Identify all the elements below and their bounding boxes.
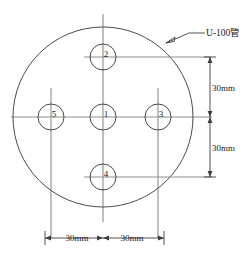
- hole-label-5: 5: [52, 109, 57, 119]
- pipe-label-text: U-100管: [206, 27, 240, 38]
- arrowhead-down-upper-icon: [208, 111, 213, 117]
- dimension-label-vertical-lower: 30mm: [212, 143, 235, 153]
- horizontal-dimension-group: [45, 231, 164, 245]
- dimension-label-vertical-upper: 30mm: [212, 83, 235, 93]
- arrowhead-right-outer-icon: [158, 236, 164, 241]
- arrowhead-up-upper-icon: [208, 57, 213, 63]
- dimension-label-horizontal-right: 30mm: [120, 233, 143, 243]
- hole-label-2: 2: [104, 49, 109, 59]
- arrowhead-left-outer-icon: [45, 236, 51, 241]
- arrowhead-down-lower-icon: [208, 171, 213, 177]
- arrowhead-left-inner-right-icon: [103, 236, 109, 241]
- pipe-hole-layout-diagram: 2 5 1 3 4 U-100管: [0, 0, 243, 258]
- hole-label-4: 4: [104, 169, 109, 179]
- arrowhead-up-lower-icon: [208, 117, 213, 123]
- hole-label-3: 3: [159, 109, 164, 119]
- pipe-label-leader: [166, 33, 205, 43]
- dimension-label-horizontal-left: 30mm: [65, 233, 88, 243]
- arrowhead-right-inner-left-icon: [97, 236, 103, 241]
- hole-label-1: 1: [104, 109, 109, 119]
- diagram-canvas: 2 5 1 3 4 U-100管: [0, 0, 243, 258]
- leader-line-segment: [166, 33, 189, 43]
